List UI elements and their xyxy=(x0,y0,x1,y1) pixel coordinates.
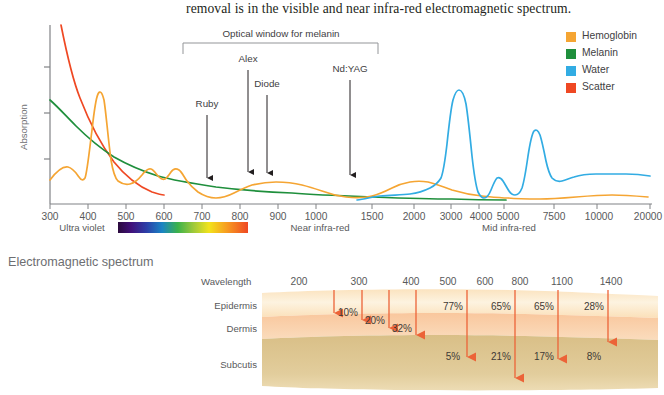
skin-wavelength-header: Wavelength xyxy=(201,276,251,287)
legend-label-water: Water xyxy=(582,65,609,75)
chart-legend: Hemoglobin Melanin Water Scatter xyxy=(566,28,664,96)
marker-label-alex: Alex xyxy=(238,53,257,64)
skin-pct-upper-3: 77% xyxy=(443,301,463,312)
legend-swatch-scatter xyxy=(566,83,576,93)
x-axis-title: Wavelength (nm) xyxy=(313,239,386,240)
skin-wl-300: 300 xyxy=(351,276,368,287)
svg-text:400: 400 xyxy=(80,211,97,220)
marker-label-ruby: Ruby xyxy=(196,98,219,109)
legend-item-melanin: Melanin xyxy=(566,45,664,62)
skin-layer-label-epidermis: Epidermis xyxy=(214,300,257,311)
absorption-spectrum-chart: Absorption 300 400 500 600 700 800 900 xyxy=(0,20,664,220)
band-label-nir: Near infra-red xyxy=(290,222,349,233)
skin-pct-upper-6: 28% xyxy=(584,301,604,312)
svg-text:300: 300 xyxy=(42,211,59,220)
skin-pct-upper-2: 32% xyxy=(392,323,412,334)
y-axis-label: Absorption xyxy=(18,104,29,150)
svg-text:500: 500 xyxy=(118,211,135,220)
legend-swatch-water xyxy=(566,66,576,76)
legend-swatch-hemoglobin xyxy=(566,32,576,42)
legend-item-water: Water xyxy=(566,62,664,79)
legend-item-hemoglobin: Hemoglobin xyxy=(566,28,664,45)
skin-layer-label-dermis: Dermis xyxy=(227,323,258,334)
skin-wl-1100: 1100 xyxy=(551,276,573,287)
band-label-mir: Mid infra-red xyxy=(482,222,536,233)
marker-label-diode: Diode xyxy=(254,78,280,89)
skin-penetration-diagram: Wavelength 200 300 400 500 600 800 1100 … xyxy=(195,262,664,395)
svg-text:1000: 1000 xyxy=(305,211,328,220)
legend-label-scatter: Scatter xyxy=(582,82,615,92)
bracket-label: Optical window for melanin xyxy=(222,28,339,39)
svg-text:20000: 20000 xyxy=(634,211,663,220)
skin-pct-lower-2: 17% xyxy=(534,351,554,362)
svg-text:10000: 10000 xyxy=(585,211,614,220)
svg-text:7500: 7500 xyxy=(543,211,566,220)
skin-wl-400: 400 xyxy=(403,276,420,287)
skin-wavelength-scale: 200 300 400 500 600 800 1100 1400 xyxy=(291,276,623,287)
skin-wl-500: 500 xyxy=(440,276,457,287)
series-hemoglobin xyxy=(50,92,648,199)
band-label-uv: Ultra violet xyxy=(59,222,105,233)
marker-label-ndyag: Nd:YAG xyxy=(332,63,367,74)
svg-text:1500: 1500 xyxy=(361,211,384,220)
spectrum-band-row: Ultra violet Near infra-red Mid infra-re… xyxy=(0,220,664,240)
skin-wl-200: 200 xyxy=(291,276,308,287)
skin-pct-upper-0: 10% xyxy=(338,307,358,318)
skin-wl-800: 800 xyxy=(512,276,529,287)
legend-swatch-melanin xyxy=(566,49,576,59)
svg-text:3000: 3000 xyxy=(440,211,463,220)
skin-layer-label-subcutis: Subcutis xyxy=(220,359,257,370)
skin-pct-lower-1: 21% xyxy=(491,351,511,362)
svg-text:900: 900 xyxy=(270,211,287,220)
svg-text:5000: 5000 xyxy=(497,211,520,220)
svg-text:800: 800 xyxy=(232,211,249,220)
svg-text:700: 700 xyxy=(194,211,211,220)
skin-pct-upper-1: 20% xyxy=(365,315,385,326)
legend-label-hemoglobin: Hemoglobin xyxy=(582,31,637,41)
visible-spectrum-bar xyxy=(118,222,248,233)
figure-caption: removal is in the visible and near infra… xyxy=(186,1,664,17)
laser-markers: Ruby Alex Diode Nd:YAG xyxy=(196,53,368,178)
svg-text:4000: 4000 xyxy=(470,211,493,220)
x-axis-ticks: 300 400 500 600 700 800 900 1000 1500 20… xyxy=(42,204,663,220)
skin-pct-lower-0: 5% xyxy=(446,351,461,362)
svg-text:600: 600 xyxy=(156,211,173,220)
skin-pct-upper-4: 65% xyxy=(491,301,511,312)
chart-axes xyxy=(44,25,652,204)
legend-item-scatter: Scatter xyxy=(566,79,664,96)
skin-wl-600: 600 xyxy=(477,276,494,287)
skin-pct-lower-3: 8% xyxy=(587,351,602,362)
svg-text:2000: 2000 xyxy=(403,211,426,220)
skin-wl-1400: 1400 xyxy=(600,276,623,287)
legend-label-melanin: Melanin xyxy=(582,48,618,58)
em-spectrum-label: Electromagnetic spectrum xyxy=(8,255,154,269)
optical-window-annotation: Optical window for melanin xyxy=(183,28,378,54)
skin-pct-upper-5: 65% xyxy=(534,301,554,312)
